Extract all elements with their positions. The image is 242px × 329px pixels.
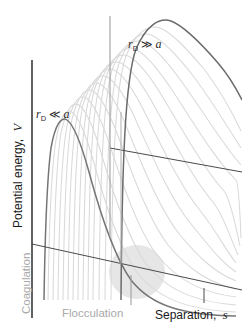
svg-text:Separation, s: Separation, s — [155, 308, 228, 322]
y-axis-label: Potential energy, V — [11, 122, 25, 228]
svg-text:Potential energy, V: Potential energy, V — [11, 122, 25, 228]
coagulation-label: Coagulation — [20, 253, 32, 314]
dlvo-potential-energy-figure: Potential energy, V Separation, s Coagul… — [0, 0, 242, 329]
thin-debye-variable: a — [64, 107, 70, 121]
coagulation-label-text: Coagulation — [20, 253, 32, 314]
flocculation-label: Flocculation — [62, 307, 123, 319]
thick-debye-subscript: D — [133, 44, 139, 53]
y-axis-label-text: Potential energy, — [11, 139, 25, 228]
x-axis-label-text: Separation, — [155, 308, 216, 322]
thick-debye-variable: a — [156, 37, 162, 51]
x-axis-label: Separation, s — [155, 308, 228, 322]
thin-debye-subscript: D — [41, 114, 47, 123]
thin-debye-relation: ≪ — [49, 108, 61, 121]
x-axis-label-symbol: s — [223, 308, 228, 322]
figure-canvas: Potential energy, V Separation, s Coagul… — [0, 0, 242, 329]
thick-debye-relation: ≫ — [141, 38, 153, 51]
